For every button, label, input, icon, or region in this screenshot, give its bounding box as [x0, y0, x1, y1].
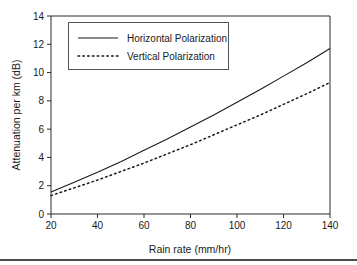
x-tick-label: 20 [45, 220, 57, 231]
legend-label-horizontal-polarization: Horizontal Polarization [127, 33, 227, 44]
y-axis-ticks: 02468101214 [33, 11, 51, 220]
x-tick-label: 40 [92, 220, 104, 231]
series-line-horizontal-polarization [51, 49, 330, 193]
y-tick-label: 4 [38, 152, 44, 163]
x-tick-label: 140 [322, 220, 339, 231]
chart-canvas: 02468101214 20406080100120140 Attenuatio… [0, 0, 357, 265]
x-tick-label: 120 [275, 220, 292, 231]
legend-label-vertical-polarization: Vertical Polarization [127, 51, 215, 62]
y-tick-label: 8 [38, 95, 44, 106]
x-tick-label: 60 [138, 220, 150, 231]
x-tick-label: 80 [185, 220, 197, 231]
y-tick-label: 6 [38, 124, 44, 135]
chart-figure: 02468101214 20406080100120140 Attenuatio… [0, 0, 357, 265]
y-tick-label: 12 [33, 39, 45, 50]
x-axis-ticks: 20406080100120140 [45, 214, 338, 231]
y-tick-label: 10 [33, 67, 45, 78]
chart-legend: Horizontal Polarization Vertical Polariz… [69, 23, 229, 70]
y-axis-title: Attenuation per km (dB) [10, 60, 22, 171]
data-series-layer [51, 49, 330, 196]
series-line-vertical-polarization [51, 82, 330, 195]
legend-box [69, 23, 229, 70]
y-tick-label: 14 [33, 11, 45, 22]
x-axis-title: Rain rate (mm/hr) [149, 243, 231, 255]
x-tick-label: 100 [229, 220, 246, 231]
y-tick-label: 0 [38, 209, 44, 220]
y-tick-label: 2 [38, 180, 44, 191]
